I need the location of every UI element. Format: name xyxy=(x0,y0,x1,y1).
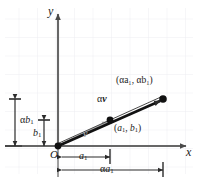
origin-label: O xyxy=(50,148,58,160)
point-label-alpha-v: (αa₁, αb₁) xyxy=(116,75,153,85)
dimension-label-alpha-a1: αa1 xyxy=(100,163,114,174)
dimension-label-a1: a1 xyxy=(79,150,87,161)
point-label-v: (a1, b1) xyxy=(114,123,141,133)
vector-label-alpha-v: αv xyxy=(97,93,107,104)
dimension-label-alpha-b1: αb1 xyxy=(20,114,34,125)
point-dot-alpha-v xyxy=(159,95,167,103)
point-dot-v xyxy=(107,117,114,124)
vector-diagram-svg xyxy=(0,0,198,180)
figure-canvas: y x O (αa₁, αb₁) (a1, b1) αv v αb1 b1 a1… xyxy=(0,0,198,180)
background-grid xyxy=(5,8,193,174)
axis-label-x: x xyxy=(186,145,191,160)
axis-label-y: y xyxy=(48,4,53,19)
vector-label-v: v xyxy=(83,128,87,139)
dimension-label-b1: b1 xyxy=(33,127,41,138)
